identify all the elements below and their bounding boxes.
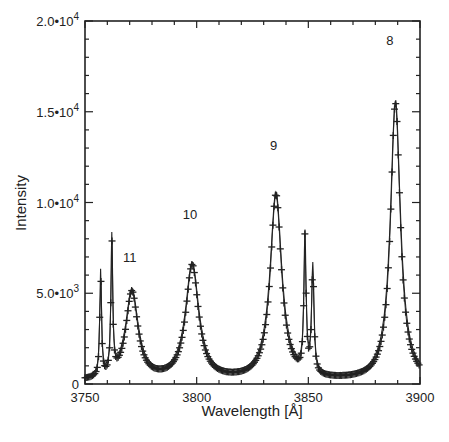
peak-label: 8 — [386, 33, 393, 48]
axis-ticks — [85, 21, 420, 384]
x-tick-label: 3900 — [406, 390, 435, 405]
y-tick-label: 1.5•104 — [36, 102, 79, 120]
spectrum-chart: 375038003850390005.0•1031.0•1041.5•1042.… — [0, 0, 449, 442]
observed-line — [85, 104, 419, 378]
data-series — [82, 100, 423, 381]
peak-label: 9 — [270, 138, 277, 153]
peak-label: 10 — [183, 207, 197, 222]
y-tick-label: 1.0•104 — [36, 193, 79, 211]
peak-label: 11 — [123, 250, 137, 265]
plot-frame — [85, 21, 420, 384]
fit-line — [85, 101, 420, 376]
x-axis-title: Wavelength [Å] — [201, 402, 302, 419]
y-tick-label: 5.0•103 — [36, 283, 79, 301]
x-tick-label: 3750 — [71, 390, 100, 405]
y-tick-label: 2.0•104 — [36, 11, 79, 29]
peak-annotations: 111098 — [123, 33, 394, 266]
tick-labels: 375038003850390005.0•1031.0•1041.5•1042.… — [36, 11, 434, 405]
y-tick-label: 0 — [72, 377, 79, 392]
y-axis-title: Intensity — [12, 175, 29, 231]
observed-markers — [82, 100, 423, 381]
